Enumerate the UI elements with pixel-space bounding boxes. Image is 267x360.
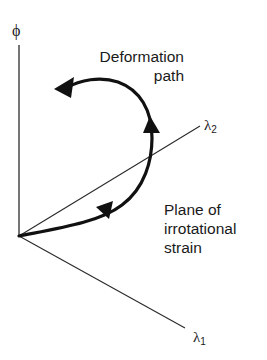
deformation-path-curve (19, 79, 152, 236)
plane-line2: irrotational (164, 219, 236, 238)
phi-axis-label: ϕ (12, 23, 20, 39)
deformation-path-line2: path (82, 66, 184, 85)
deformation-path-caption: Deformation path (82, 47, 184, 85)
path-arrowhead-end (54, 77, 74, 98)
lambda1-axis-label: λ1 (193, 330, 206, 347)
lambda2-axis-label: λ2 (204, 118, 217, 135)
diagram-canvas: ϕ λ2 λ1 Deformation path Plane of irrota… (0, 0, 267, 360)
lambda2-subscript: 2 (211, 124, 217, 135)
lambda1-axis (19, 236, 185, 328)
path-arrowhead-middle (143, 116, 160, 133)
plane-line3: strain (164, 238, 236, 257)
plane-line1: Plane of (164, 200, 236, 219)
deformation-path-line1: Deformation (82, 47, 184, 66)
plane-caption: Plane of irrotational strain (164, 200, 236, 257)
lambda1-subscript: 1 (200, 336, 206, 347)
